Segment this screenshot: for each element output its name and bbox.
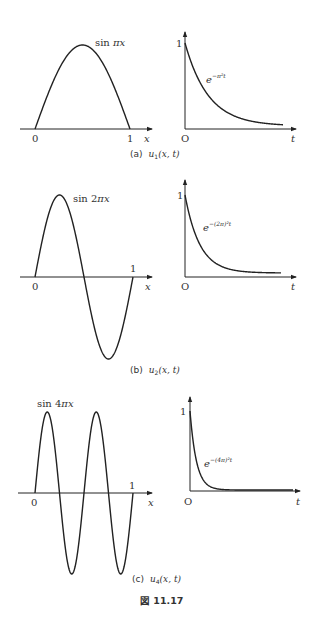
origin-label: O [184, 496, 192, 507]
t-axis-label: t [291, 133, 296, 144]
y-tick-1: 1 [177, 190, 183, 201]
origin-label: O [181, 281, 189, 292]
panel-c-right-plot: 1 O t e−(4π)²t [180, 397, 301, 507]
exp-decay-curve [185, 195, 281, 273]
sin-label: sin 2πx [73, 193, 110, 204]
panel-c: sin 4πx 0 1 x 1 O t e−(4π)²t (c)u4(x, t) [18, 397, 301, 585]
exp-label: e−(4π)²t [204, 456, 233, 469]
x-tick-1: 1 [129, 480, 135, 491]
x-tick-1: 1 [127, 133, 133, 144]
origin-label: O [181, 133, 189, 144]
figure-title: 図 11.17 [140, 595, 183, 606]
t-axis-label: t [296, 496, 301, 507]
panel-c-left-plot: sin 4πx 0 1 x [18, 398, 154, 574]
x-axis-label: x [148, 497, 154, 508]
exp-label: e−π²t [206, 72, 226, 85]
t-axis-label: t [291, 281, 296, 292]
panel-a-right-plot: 1 O t e−π²t [176, 32, 296, 144]
caption-c: (c)u4(x, t) [132, 574, 182, 585]
sin-pi-x-curve [35, 45, 130, 129]
y-tick-1: 1 [180, 406, 186, 417]
x-tick-1: 1 [130, 263, 136, 274]
caption-a: (a)u1(x, t) [130, 149, 180, 160]
exp-label: e−(2π)²t [203, 220, 232, 233]
x-axis-label: x [145, 281, 151, 292]
sin-label: sin 4πx [37, 398, 74, 409]
sin-label: sin πx [95, 37, 126, 48]
figure-canvas: sin πx 0 1 x 1 O t e−π²t (a)u1(x, t) sin… [0, 0, 317, 622]
x-tick-0: 0 [32, 281, 38, 292]
panel-b-left-plot: sin 2πx 0 1 x [20, 193, 152, 359]
x-tick-0: 0 [31, 497, 37, 508]
exp-decay-curve [190, 411, 293, 490]
x-tick-0: 0 [32, 133, 38, 144]
panel-b: sin 2πx 0 1 x 1 O t e−(2π)²t (b)u2(x, t) [20, 180, 296, 376]
panel-a: sin πx 0 1 x 1 O t e−π²t (a)u1(x, t) [20, 32, 296, 160]
caption-b: (b)u2(x, t) [130, 365, 180, 376]
panel-b-right-plot: 1 O t e−(2π)²t [177, 180, 296, 292]
panel-a-left-plot: sin πx 0 1 x [20, 37, 152, 144]
x-axis-label: x [144, 133, 150, 144]
exp-decay-curve [185, 43, 283, 125]
y-tick-1: 1 [176, 38, 182, 49]
